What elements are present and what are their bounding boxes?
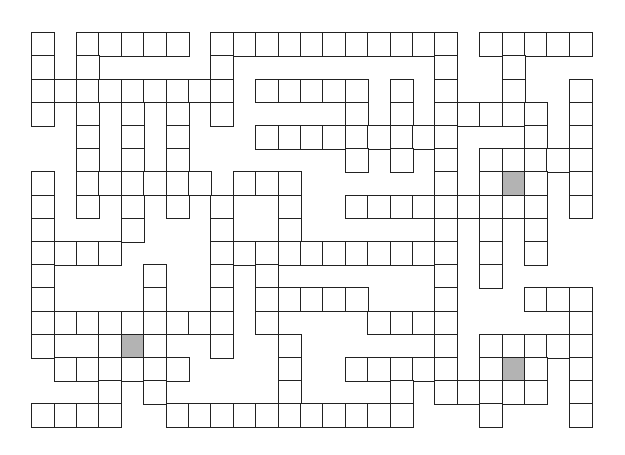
grid-cell[interactable] — [121, 102, 145, 127]
grid-cell[interactable] — [345, 32, 369, 57]
grid-cell[interactable] — [54, 403, 78, 428]
grid-cell[interactable] — [255, 311, 279, 336]
grid-cell[interactable] — [166, 171, 190, 196]
grid-cell[interactable] — [479, 218, 503, 243]
shaded-grid-cell[interactable] — [121, 334, 145, 359]
grid-cell[interactable] — [31, 102, 55, 127]
grid-cell[interactable] — [278, 218, 302, 243]
grid-cell[interactable] — [300, 125, 324, 150]
grid-cell[interactable] — [76, 79, 100, 104]
grid-cell[interactable] — [569, 195, 593, 220]
grid-cell[interactable] — [121, 171, 145, 196]
grid-cell[interactable] — [143, 287, 167, 312]
grid-cell[interactable] — [569, 357, 593, 382]
grid-cell[interactable] — [524, 32, 548, 57]
grid-cell[interactable] — [54, 79, 78, 104]
grid-cell[interactable] — [569, 334, 593, 359]
grid-cell[interactable] — [210, 55, 234, 80]
grid-cell[interactable] — [76, 55, 100, 80]
grid-cell[interactable] — [367, 32, 391, 57]
grid-cell[interactable] — [502, 380, 526, 405]
grid-cell[interactable] — [300, 32, 324, 57]
grid-cell[interactable] — [31, 171, 55, 196]
grid-cell[interactable] — [31, 55, 55, 80]
grid-cell[interactable] — [121, 148, 145, 173]
grid-cell[interactable] — [210, 32, 234, 57]
grid-cell[interactable] — [76, 171, 100, 196]
grid-cell[interactable] — [345, 102, 369, 127]
grid-cell[interactable] — [345, 125, 369, 150]
grid-cell[interactable] — [457, 195, 481, 220]
grid-cell[interactable] — [143, 32, 167, 57]
grid-cell[interactable] — [390, 32, 414, 57]
grid-cell[interactable] — [546, 148, 570, 173]
grid-cell[interactable] — [143, 334, 167, 359]
grid-cell[interactable] — [31, 311, 55, 336]
grid-cell[interactable] — [76, 357, 100, 382]
grid-cell[interactable] — [210, 287, 234, 312]
grid-cell[interactable] — [54, 311, 78, 336]
grid-cell[interactable] — [434, 218, 458, 243]
grid-cell[interactable] — [76, 311, 100, 336]
grid-cell[interactable] — [434, 32, 458, 57]
grid-cell[interactable] — [322, 403, 346, 428]
grid-cell[interactable] — [255, 264, 279, 289]
grid-cell[interactable] — [278, 79, 302, 104]
grid-cell[interactable] — [569, 32, 593, 57]
grid-cell[interactable] — [76, 403, 100, 428]
grid-cell[interactable] — [255, 125, 279, 150]
grid-cell[interactable] — [367, 357, 391, 382]
grid-cell[interactable] — [367, 195, 391, 220]
grid-cell[interactable] — [210, 79, 234, 104]
grid-cell[interactable] — [76, 125, 100, 150]
grid-cell[interactable] — [412, 357, 436, 382]
grid-cell[interactable] — [278, 334, 302, 359]
grid-cell[interactable] — [31, 334, 55, 359]
grid-cell[interactable] — [255, 287, 279, 312]
grid-cell[interactable] — [322, 287, 346, 312]
grid-cell[interactable] — [98, 357, 122, 382]
grid-cell[interactable] — [98, 32, 122, 57]
grid-cell[interactable] — [278, 403, 302, 428]
grid-cell[interactable] — [166, 125, 190, 150]
grid-cell[interactable] — [31, 287, 55, 312]
grid-cell[interactable] — [434, 79, 458, 104]
grid-cell[interactable] — [524, 287, 548, 312]
grid-cell[interactable] — [210, 334, 234, 359]
grid-cell[interactable] — [434, 125, 458, 150]
grid-cell[interactable] — [98, 171, 122, 196]
grid-cell[interactable] — [479, 171, 503, 196]
grid-cell[interactable] — [166, 195, 190, 220]
grid-cell[interactable] — [121, 218, 145, 243]
grid-cell[interactable] — [166, 102, 190, 127]
grid-cell[interactable] — [479, 357, 503, 382]
grid-cell[interactable] — [233, 241, 257, 266]
grid-cell[interactable] — [278, 287, 302, 312]
grid-cell[interactable] — [210, 102, 234, 127]
grid-cell[interactable] — [76, 32, 100, 57]
grid-cell[interactable] — [345, 79, 369, 104]
grid-cell[interactable] — [546, 32, 570, 57]
grid-cell[interactable] — [300, 241, 324, 266]
grid-cell[interactable] — [479, 102, 503, 127]
grid-cell[interactable] — [143, 264, 167, 289]
grid-cell[interactable] — [390, 380, 414, 405]
grid-cell[interactable] — [233, 403, 257, 428]
grid-cell[interactable] — [502, 55, 526, 80]
grid-cell[interactable] — [502, 334, 526, 359]
grid-cell[interactable] — [434, 195, 458, 220]
grid-cell[interactable] — [390, 357, 414, 382]
shaded-grid-cell[interactable] — [502, 357, 526, 382]
grid-cell[interactable] — [434, 311, 458, 336]
grid-cell[interactable] — [98, 241, 122, 266]
grid-cell[interactable] — [479, 334, 503, 359]
grid-cell[interactable] — [300, 403, 324, 428]
grid-cell[interactable] — [188, 79, 212, 104]
grid-cell[interactable] — [569, 403, 593, 428]
grid-cell[interactable] — [434, 357, 458, 382]
grid-cell[interactable] — [390, 102, 414, 127]
grid-cell[interactable] — [457, 380, 481, 405]
grid-cell[interactable] — [412, 311, 436, 336]
grid-cell[interactable] — [479, 195, 503, 220]
grid-cell[interactable] — [322, 241, 346, 266]
